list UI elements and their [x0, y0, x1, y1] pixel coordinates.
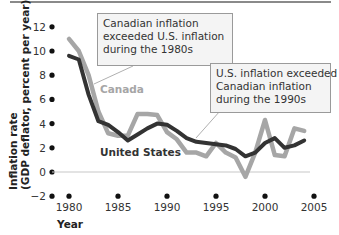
callout-1980s: Canadian inflation exceeded U.S. inflati… [97, 13, 233, 66]
callout-1990s-line1: U.S. inflation exceeded [216, 67, 325, 80]
x-tick-label: 1985 [105, 201, 132, 213]
callout-1980s-line3: during the 1980s [103, 43, 227, 56]
y-tick-dot [49, 73, 54, 78]
y-axis: −2024681012 [31, 21, 55, 202]
y-axis-title-line1: Inflation rate [7, 112, 19, 190]
canada-series-label: Canada [100, 83, 144, 95]
y-tick-label: −2 [31, 190, 46, 202]
y-tick-label: 10 [33, 45, 46, 57]
y-tick-label: 0 [39, 166, 46, 178]
y-tick-dot [49, 121, 54, 126]
callout-1990s-line2: Canadian inflation [216, 80, 325, 93]
x-axis: 198019851990199520002005 [56, 194, 328, 214]
y-tick-dot [49, 24, 54, 29]
callout-1990s-line3: during the 1990s [216, 93, 325, 106]
us-series-label: United States [100, 146, 181, 158]
y-tick-dot [49, 145, 54, 150]
x-tick-dot [164, 194, 169, 199]
y-tick-label: 4 [39, 118, 46, 130]
callout-1990s: U.S. inflation exceeded Canadian inflati… [210, 63, 331, 113]
y-tick-label: 2 [39, 142, 46, 154]
x-tick-label: 1990 [154, 201, 181, 213]
x-tick-label: 2000 [252, 201, 279, 213]
x-tick-label: 1980 [56, 201, 83, 213]
x-axis-title: Year [56, 218, 84, 230]
x-tick-dot [213, 194, 218, 199]
x-tick-dot [262, 194, 267, 199]
x-tick-dot [311, 194, 316, 199]
callout-leader-1980s [94, 66, 133, 84]
y-tick-dot [49, 194, 54, 199]
y-axis-title: Inflation rate (GDP deflator, percent pe… [7, 0, 31, 190]
y-tick-label: 8 [39, 69, 46, 81]
y-tick-dot [49, 48, 54, 53]
y-tick-label: 6 [39, 93, 46, 105]
callout-1980s-line1: Canadian inflation [103, 17, 227, 30]
x-tick-dot [115, 194, 120, 199]
x-tick-dot [66, 194, 71, 199]
y-tick-dot [49, 97, 54, 102]
x-tick-label: 2005 [301, 201, 328, 213]
x-tick-label: 1995 [203, 201, 230, 213]
callout-1980s-line2: exceeded U.S. inflation [103, 30, 227, 43]
y-axis-title-line2: (GDP deflator, percent per year) [19, 0, 31, 190]
y-tick-label: 12 [33, 21, 46, 33]
